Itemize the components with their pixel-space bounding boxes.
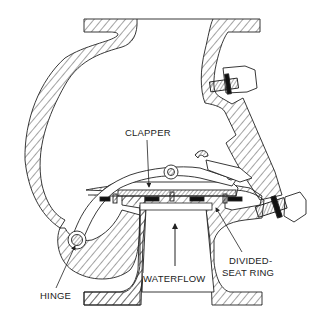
label-clapper: CLAPPER [125,127,171,138]
label-hinge: HINGE [40,290,71,301]
hinge-pin [68,231,86,249]
clapper-leader [147,140,149,187]
upper-bolt [209,66,257,94]
label-divided-seat-ring-1: DIVIDED- [229,255,272,266]
label-waterflow: WATERFLOW [143,273,206,284]
label-divided-seat-ring-2: SEAT RING [222,267,274,278]
inlet-mouth [140,203,212,210]
